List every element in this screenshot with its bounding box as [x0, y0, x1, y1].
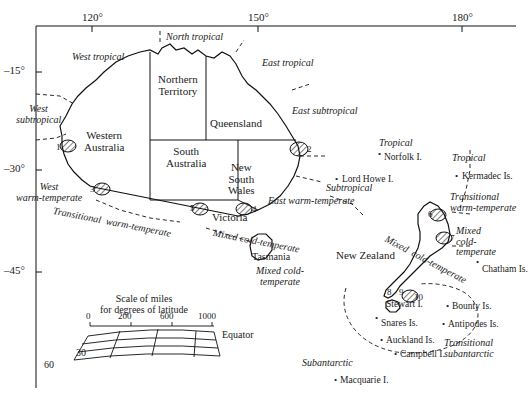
- zone-label-transitional-warm-temperate-nz: Transitional warm-temperate: [450, 192, 516, 213]
- island-dot-kermadec-icon: •: [455, 172, 458, 181]
- axis-tick-left-30: –30°: [4, 163, 25, 175]
- site-marker-5[interactable]: 5: [190, 204, 195, 213]
- scale-tick-0: 0: [86, 312, 91, 321]
- site-marker-8[interactable]: 8: [387, 288, 392, 297]
- scale-tick-1000: 1000: [198, 312, 216, 321]
- island-label-macquarie: Macquarie I.: [340, 376, 389, 386]
- zone-label-east-warm-temperate: East warm-temperate: [268, 196, 354, 207]
- island-label-norfolk: Norfolk I.: [384, 153, 422, 163]
- island-dot-lord-howe-icon: •: [335, 175, 338, 184]
- zone-label-subantarctic: Subantarctic: [302, 358, 353, 369]
- island-dot-norfolk-icon: •: [378, 150, 381, 159]
- axis-tick-left-15: –15°: [4, 65, 25, 77]
- scale-title: Scale of miles for degrees of latitude: [100, 294, 188, 315]
- site-marker-1[interactable]: 1: [56, 143, 61, 152]
- island-label-antipodes: Antipodes Is.: [448, 320, 499, 330]
- site-marker-9[interactable]: 9: [399, 288, 404, 297]
- island-label-chatham: Chatham Is.: [482, 265, 528, 275]
- region-label-south-australia: South Australia: [166, 146, 206, 169]
- island-label-bounty: Bounty Is.: [452, 302, 492, 312]
- island-dot-macquarie-icon: •: [334, 376, 337, 385]
- island-dot-bounty-icon: •: [446, 302, 449, 311]
- site-marker-7[interactable]: 7: [450, 234, 455, 243]
- region-label-new-south-wales: New South Wales: [228, 162, 255, 197]
- axis-tick-top-120: 120°: [82, 12, 103, 24]
- zone-label-west-tropical: West tropical: [72, 52, 124, 63]
- region-label-tasmania: Tasmania: [252, 252, 290, 263]
- island-label-auckland: Auckland Is.: [386, 336, 435, 346]
- zone-label-transitional-subantarctic: Transitional subantarctic: [444, 338, 494, 359]
- scale-equator-label: Equator: [222, 330, 254, 341]
- island-label-kermadec: Kermadec Is.: [462, 172, 513, 182]
- island-dot-campbell-icon: •: [394, 350, 397, 359]
- scale-tick-200: 200: [118, 312, 132, 321]
- island-dot-snares-icon: •: [375, 314, 378, 323]
- axis-tick-top-150: 150°: [248, 12, 269, 24]
- island-dot-auckland-icon: •: [380, 336, 383, 345]
- scale-lat-label-60: 60: [44, 360, 54, 371]
- scale-diagram: [74, 322, 220, 360]
- region-label-western-australia: Western Australia: [84, 130, 124, 153]
- scale-tick-600: 600: [160, 312, 174, 321]
- scale-lat-label-30: 30: [76, 348, 86, 359]
- site-marker-6[interactable]: 6: [428, 210, 433, 219]
- zone-label-tropical-norfolk: Tropical: [379, 138, 413, 149]
- zone-label-mixed-cold-temperate-tas: Mixed cold- temperate: [256, 266, 304, 287]
- site-marker-4[interactable]: 4: [252, 205, 257, 214]
- site-marker-2[interactable]: 2: [307, 145, 312, 154]
- zone-label-west-subtropical: West subtropical: [16, 104, 61, 125]
- site-marker-3[interactable]: 3: [90, 185, 95, 194]
- region-label-victoria: Victoria: [212, 212, 247, 224]
- region-label-queensland: Queensland: [210, 118, 262, 130]
- zone-label-tropical-kermadec: Tropical: [452, 153, 486, 164]
- zone-label-east-subtropical: East subtropical: [292, 106, 357, 117]
- island-label-snares: Snares Is.: [381, 319, 418, 329]
- axis-tick-top-180: 180°: [452, 12, 473, 24]
- zone-label-north-tropical: North tropical: [166, 32, 223, 43]
- zone-label-east-tropical: East tropical: [262, 58, 314, 69]
- region-label-northern-territory: Northern Territory: [158, 74, 198, 97]
- zone-label-mixed-cold-temperate-chatham: Mixed cold- temperate: [456, 226, 496, 258]
- island-label-campbell: Campbell I.: [400, 350, 445, 360]
- axis-tick-left-45: –45°: [4, 265, 25, 277]
- island-label-lord-howe: Lord Howe I.: [342, 175, 393, 185]
- island-dot-chatham-icon: •: [476, 258, 479, 267]
- zone-label-west-warm-temperate: West warm-temperate: [16, 182, 82, 203]
- region-label-new-zealand: New Zealand: [336, 250, 395, 262]
- island-dot-antipodes-icon: •: [442, 320, 445, 329]
- site-marker-10[interactable]: 10: [414, 293, 423, 302]
